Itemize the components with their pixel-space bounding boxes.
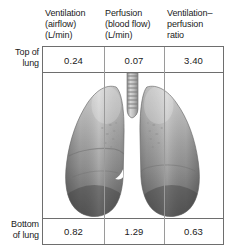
value-perfusion-bottom: 1.29 [104, 218, 164, 244]
horizontal-rule-bottom [43, 218, 223, 219]
data-table-frame: 0.24 0.07 3.40 0.82 1.29 0.63 [42, 46, 224, 245]
horizontal-rule-top [43, 72, 223, 73]
value-ratio-bottom: 0.63 [164, 218, 223, 244]
table-row-bottom-of-lung: 0.82 1.29 0.63 [43, 218, 223, 244]
ventilation-perfusion-figure: Ventilation (airflow) (L/min) Perfusion … [0, 0, 237, 248]
value-perfusion-top: 0.07 [104, 47, 164, 73]
column-divider-1 [104, 47, 105, 244]
value-ratio-top: 3.40 [164, 47, 223, 73]
lung-illustration [43, 73, 223, 220]
lung-anatomy-graphic [43, 73, 223, 220]
table-row-top-of-lung: 0.24 0.07 3.40 [43, 47, 223, 73]
row-label-bottom-of-lung: Bottom of lung [0, 219, 39, 241]
value-ventilation-bottom: 0.82 [43, 218, 104, 244]
column-header-ventilation-perfusion-ratio: Ventilation– perfusion ratio [167, 8, 235, 42]
trachea-icon [127, 73, 138, 118]
column-divider-2 [164, 47, 165, 244]
value-ventilation-top: 0.24 [43, 47, 104, 73]
row-label-top-of-lung: Top of lung [0, 47, 39, 69]
column-header-perfusion: Perfusion (blood flow) (L/min) [105, 8, 167, 42]
column-header-ventilation: Ventilation (airflow) (L/min) [45, 8, 105, 42]
